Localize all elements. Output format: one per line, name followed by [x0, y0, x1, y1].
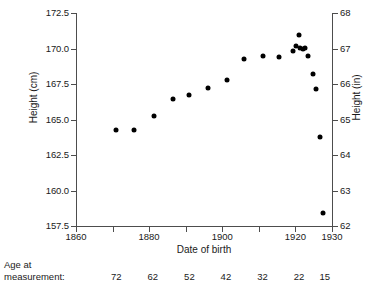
y-tick-label-left: 165.0 — [46, 115, 69, 125]
scatter-point — [311, 72, 316, 77]
scatter-point — [131, 128, 136, 133]
y-tick-right — [333, 155, 338, 156]
x-tick — [186, 227, 187, 232]
y-tick-label-left: 160.0 — [46, 186, 69, 196]
x-tick — [113, 227, 114, 232]
y-tick-label-right: 62 — [340, 221, 351, 231]
scatter-point — [321, 210, 326, 215]
scatter-point — [187, 92, 192, 97]
scatter-point — [277, 55, 282, 60]
x-tick-label: 1920 — [285, 232, 306, 242]
y-tick-label-right: 64 — [340, 150, 351, 160]
scatter-point — [302, 45, 307, 50]
scatter-point — [170, 96, 175, 101]
y-tick-label-right: 65 — [340, 115, 351, 125]
y-tick-label-left: 170.0 — [46, 44, 69, 54]
x-axis-title: Date of birth — [76, 244, 332, 255]
y-tick-label-left: 157.5 — [46, 221, 69, 231]
x-tick-label: 1900 — [212, 232, 233, 242]
age-value: 22 — [294, 272, 305, 282]
age-value: 32 — [257, 272, 268, 282]
scatter-point — [306, 54, 311, 59]
y-tick-label-left: 172.5 — [46, 8, 69, 18]
scatter-point — [297, 33, 302, 38]
y-tick-left — [71, 191, 76, 192]
scatter-point — [242, 57, 247, 62]
scatter-point — [205, 86, 210, 91]
y-tick-left — [71, 155, 76, 156]
y-tick-left — [71, 13, 76, 14]
y-tick-label-right: 66 — [340, 79, 351, 89]
x-tick-label: 1930 — [321, 232, 342, 242]
age-value: 72 — [111, 272, 122, 282]
scatter-point — [260, 53, 265, 58]
y-tick-label-left: 162.5 — [46, 150, 69, 160]
age-value: 42 — [221, 272, 232, 282]
x-tick-label: 1860 — [65, 232, 86, 242]
chart-canvas: Height (cm) Height (in) Date of birth Ag… — [0, 0, 366, 291]
scatter-point — [313, 87, 318, 92]
y-tick-left — [71, 84, 76, 85]
scatter-point — [114, 128, 119, 133]
age-axis-label-line1: Age at — [4, 259, 31, 270]
y-tick-left — [71, 120, 76, 121]
y-tick-left — [71, 49, 76, 50]
y-tick-label-left: 167.5 — [46, 79, 69, 89]
y-tick-label-right: 68 — [340, 8, 351, 18]
y-tick-right — [333, 49, 338, 50]
scatter-point — [318, 134, 323, 139]
y-tick-right — [333, 226, 338, 227]
y-tick-right — [333, 13, 338, 14]
scatter-point — [224, 78, 229, 83]
age-axis-label-line2: measurement: — [4, 271, 65, 282]
y-tick-label-right: 63 — [340, 186, 351, 196]
scatter-point — [151, 113, 156, 118]
age-axis-label: Age at measurement: — [4, 259, 65, 283]
y-tick-right — [333, 191, 338, 192]
y-tick-right — [333, 120, 338, 121]
y-tick-label-right: 67 — [340, 44, 351, 54]
age-value: 62 — [148, 272, 159, 282]
y-tick-right — [333, 84, 338, 85]
y-axis-left-title: Height (cm) — [28, 58, 39, 138]
x-tick-label: 1880 — [139, 232, 160, 242]
y-axis-left-line — [76, 13, 77, 226]
x-tick — [259, 227, 260, 232]
y-axis-right-title: Height (in) — [351, 58, 362, 138]
scatter-point — [290, 49, 295, 54]
age-value: 52 — [184, 272, 195, 282]
age-value: 15 — [319, 272, 330, 282]
